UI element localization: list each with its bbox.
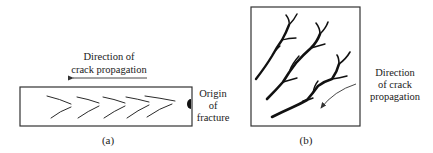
panel-b: Direction of crack propagation (b) <box>251 7 421 147</box>
propagation-arrow-diagonal-icon <box>321 84 356 108</box>
branching-cracks <box>256 14 350 117</box>
origin-label-line3: fracture <box>197 112 230 123</box>
panel-a: Direction of crack propagation Origin of… <box>20 51 230 147</box>
origin-label-line1: Origin <box>199 88 227 99</box>
panel-a-direction-label-line1: Direction of <box>83 51 135 62</box>
chevron-marks <box>47 96 175 118</box>
fracture-diagram: Direction of crack propagation Origin of… <box>0 0 433 153</box>
origin-label-line2: of <box>209 100 218 111</box>
panel-b-caption: (b) <box>300 134 313 147</box>
specimen-plate <box>251 7 360 126</box>
origin-of-fracture-marker-icon <box>187 99 191 109</box>
panel-b-direction-label-line2: of crack <box>378 79 413 90</box>
panel-b-direction-label-line3: propagation <box>370 91 421 102</box>
panel-a-caption: (a) <box>102 134 115 147</box>
panel-a-direction-label-line2: crack propagation <box>71 64 147 75</box>
panel-b-direction-label-line1: Direction <box>375 67 415 78</box>
